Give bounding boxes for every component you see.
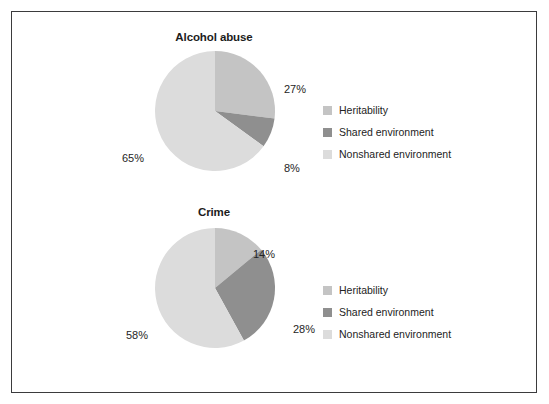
legend-label: Heritability xyxy=(339,284,388,296)
pie-slice-heritability xyxy=(215,51,275,119)
pie-value-label-shared-environment: 8% xyxy=(284,162,300,174)
legend-swatch-icon xyxy=(323,106,332,115)
legend-swatch-icon xyxy=(323,308,332,317)
legend-item-nonshared-environment: Nonshared environment xyxy=(323,143,493,165)
pie-value-label-nonshared-environment: 65% xyxy=(122,152,144,164)
pie-graphic xyxy=(153,49,277,173)
legend-swatch-icon xyxy=(323,330,332,339)
legend-item-shared-environment: Shared environment xyxy=(323,301,493,323)
legend-swatch-icon xyxy=(323,286,332,295)
legend-label: Nonshared environment xyxy=(339,148,451,160)
chart-title: Alcohol abuse xyxy=(12,31,416,43)
figure-frame: Alcohol abuse 27% 8% 65% Heritability Sh… xyxy=(11,11,537,393)
legend-item-heritability: Heritability xyxy=(323,279,493,301)
legend-label: Shared environment xyxy=(339,306,434,318)
legend-label: Heritability xyxy=(339,104,388,116)
pie-graphic xyxy=(153,226,277,350)
pie-slices xyxy=(155,228,275,348)
legend-item-nonshared-environment: Nonshared environment xyxy=(323,323,493,345)
pie-value-label-heritability: 14% xyxy=(253,248,275,260)
legend-item-heritability: Heritability xyxy=(323,99,493,121)
pie-value-label-nonshared-environment: 58% xyxy=(126,329,148,341)
chart-legend: Heritability Shared environment Nonshare… xyxy=(323,279,493,345)
pie-chart-alcohol-abuse: Alcohol abuse 27% 8% 65% Heritability Sh… xyxy=(12,20,536,206)
legend-label: Shared environment xyxy=(339,126,434,138)
chart-legend: Heritability Shared environment Nonshare… xyxy=(323,99,493,165)
legend-swatch-icon xyxy=(323,150,332,159)
legend-label: Nonshared environment xyxy=(339,328,451,340)
pie-value-label-heritability: 27% xyxy=(284,83,306,95)
legend-swatch-icon xyxy=(323,128,332,137)
pie-value-label-shared-environment: 28% xyxy=(293,323,315,335)
legend-item-shared-environment: Shared environment xyxy=(323,121,493,143)
pie-slices xyxy=(155,51,275,171)
chart-title: Crime xyxy=(12,206,416,218)
pie-chart-crime: Crime 14% 28% 58% Heritability Shared en… xyxy=(12,204,536,390)
